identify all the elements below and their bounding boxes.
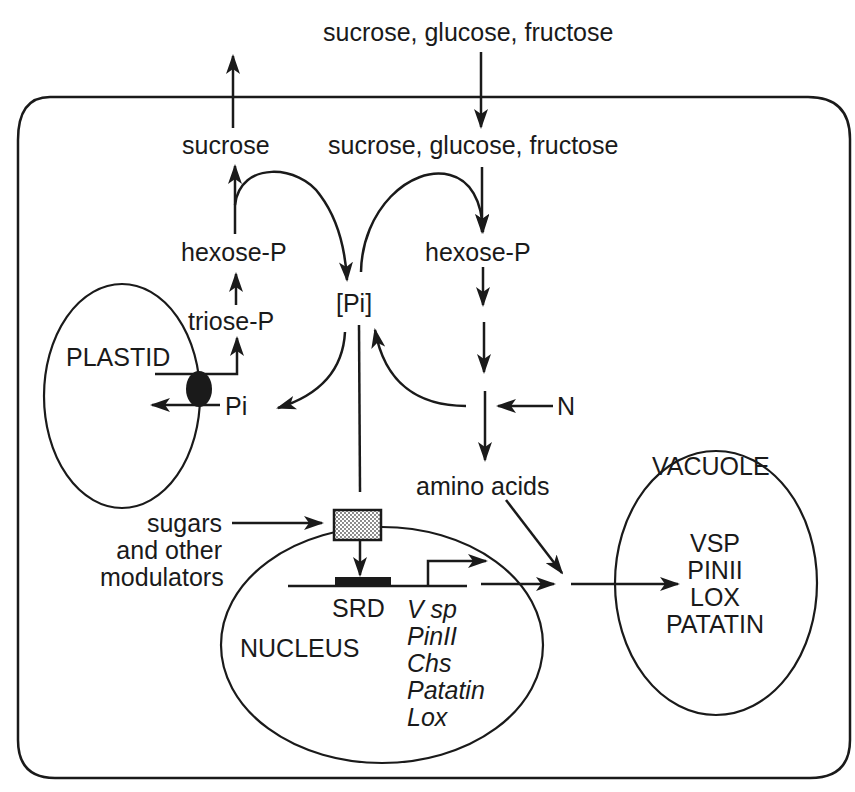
- triose-p-label: triose-P: [188, 309, 274, 334]
- modulators-label: sugars and other modulators: [100, 510, 222, 591]
- hexose-p-right-label: hexose-P: [425, 240, 531, 265]
- vacuole-label: VACUOLE: [652, 454, 770, 479]
- protein-pinii: PINII: [660, 557, 770, 584]
- cytosolic-sugars-label: sucrose, glucose, fructose: [328, 133, 618, 158]
- gene-list: V sp PinII Chs Patatin Lox: [407, 596, 485, 731]
- gene-lox: Lox: [407, 704, 485, 731]
- srd-label: SRD: [332, 596, 385, 621]
- sensor-box: [334, 510, 381, 540]
- vacuole-protein-list: VSP PINII LOX PATATIN: [660, 530, 770, 638]
- pi-label: Pi: [225, 394, 247, 419]
- gene-patatin: Patatin: [407, 677, 485, 704]
- plastid-membrane: [44, 284, 200, 508]
- protein-patatin: PATATIN: [660, 611, 770, 638]
- external-sugars-label: sucrose, glucose, fructose: [323, 20, 613, 45]
- gene-vsp: V sp: [407, 596, 485, 623]
- srd-element: [335, 577, 391, 587]
- protein-vsp: VSP: [660, 530, 770, 557]
- hexose-p-left-label: hexose-P: [181, 240, 287, 265]
- plastid-label: PLASTID: [66, 345, 170, 370]
- nitrogen-label: N: [557, 394, 575, 419]
- protein-lox: LOX: [660, 584, 770, 611]
- gene-pinii: PinII: [407, 623, 485, 650]
- pi-pool-label: [Pi]: [336, 291, 372, 316]
- pi-translocator: [186, 371, 212, 407]
- nucleus-label: NUCLEUS: [240, 636, 359, 661]
- sugar-signaling-cell-diagram: sucrose, glucose, fructose sucrose sucro…: [0, 0, 855, 792]
- sucrose-label: sucrose: [182, 133, 270, 158]
- amino-acids-label: amino acids: [416, 474, 549, 499]
- gene-chs: Chs: [407, 650, 485, 677]
